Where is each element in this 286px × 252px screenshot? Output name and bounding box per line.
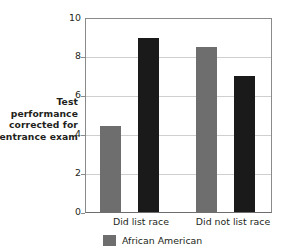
y-tick-label-6: 6 <box>55 90 81 100</box>
bar-did-list-race-african-american <box>100 126 121 212</box>
bar-did-not-list-race-african-american <box>196 47 217 212</box>
gridline-8 <box>86 57 271 58</box>
x-tick-label-did-not-list-race: Did not list race <box>185 216 281 227</box>
y-tick-label-8: 8 <box>55 51 81 61</box>
y-tick-label-10: 10 <box>55 13 81 23</box>
y-tick-label-4: 4 <box>55 129 81 139</box>
bar-chart: Test performance corrected for entrance … <box>0 0 286 252</box>
plot-area <box>85 18 272 213</box>
legend: African American <box>103 235 202 246</box>
bar-did-list-race-series-2 <box>138 38 159 212</box>
y-tickmark-0 <box>81 213 85 214</box>
y-tick-label-0: 0 <box>55 207 81 217</box>
legend-label-african-american: African American <box>122 235 202 246</box>
y-axis-label-line-2: performance <box>0 108 78 120</box>
legend-swatch-african-american <box>103 235 116 246</box>
bar-did-not-list-race-series-2 <box>234 76 255 213</box>
x-tick-label-did-list-race: Did list race <box>96 216 186 227</box>
y-tick-label-2: 2 <box>55 168 81 178</box>
